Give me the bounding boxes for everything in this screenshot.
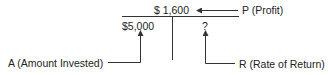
rate-label: R (Rate of Return) <box>239 58 325 70</box>
rate-value: ? <box>202 20 208 32</box>
amount-value: $5,000 <box>122 20 154 32</box>
profit-value: $ 1,600 <box>154 4 189 16</box>
amount-label: A (Amount Invested) <box>8 57 103 69</box>
profit-label: P (Profit) <box>242 4 283 16</box>
rate-arrow-icon <box>206 31 236 64</box>
amount-arrow-icon <box>108 31 141 63</box>
